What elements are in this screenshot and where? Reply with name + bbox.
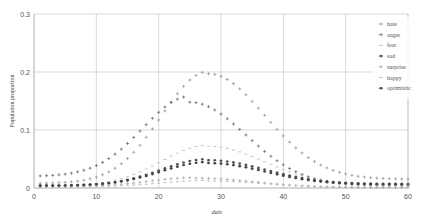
data-point <box>263 150 266 153</box>
line-chart: 010203040506000.10.20.3 date Population … <box>0 0 421 223</box>
data-point <box>101 173 104 176</box>
data-point <box>126 157 129 160</box>
data-point <box>157 179 160 182</box>
data-point <box>176 163 179 166</box>
data-point <box>238 165 241 168</box>
data-point <box>294 146 297 149</box>
data-point <box>257 107 260 110</box>
data-point <box>220 113 223 116</box>
data-point <box>282 163 285 166</box>
data-point <box>170 167 173 170</box>
data-point <box>226 78 229 81</box>
legend-label: anger <box>387 32 400 38</box>
data-point <box>226 163 229 166</box>
data-point <box>357 175 360 178</box>
data-point <box>269 172 272 175</box>
data-point <box>170 101 173 104</box>
data-point <box>263 114 266 117</box>
data-point <box>288 141 291 144</box>
data-point <box>64 173 67 176</box>
data-point <box>219 159 222 162</box>
y-tick-label: 0.1 <box>20 127 30 134</box>
data-point <box>201 158 204 161</box>
data-point <box>163 169 166 172</box>
data-point <box>251 165 254 168</box>
data-point <box>294 170 297 173</box>
data-point <box>195 74 198 77</box>
data-point <box>145 180 148 183</box>
data-point <box>238 87 241 90</box>
y-tick-label: 0 <box>26 185 30 192</box>
legend-label: sad <box>387 53 395 59</box>
data-point <box>207 159 210 162</box>
data-point <box>213 109 216 112</box>
data-point <box>76 170 79 173</box>
data-point <box>195 101 198 104</box>
data-point <box>132 136 135 139</box>
data-point <box>251 139 254 142</box>
data-point <box>213 73 216 76</box>
data-point <box>82 169 85 172</box>
data-point <box>163 105 166 108</box>
data-point <box>89 177 92 180</box>
data-point <box>313 160 316 163</box>
series-hate <box>39 71 410 185</box>
data-point <box>107 157 110 160</box>
data-point <box>39 182 42 185</box>
data-point <box>257 169 260 172</box>
x-tick-label: 20 <box>155 193 163 200</box>
data-point <box>57 181 60 184</box>
data-point <box>220 75 223 78</box>
series-anger <box>39 96 410 188</box>
data-point <box>301 151 304 154</box>
data-point <box>126 182 129 185</box>
data-point <box>182 85 185 88</box>
data-point <box>319 164 322 167</box>
data-point <box>82 179 85 182</box>
legend-label: optimistic <box>387 85 411 91</box>
data-point <box>251 167 254 170</box>
data-point <box>238 128 241 131</box>
x-tick-label: 30 <box>217 193 225 200</box>
data-point <box>132 151 135 154</box>
legend-label: happy <box>387 75 402 81</box>
series-happy <box>39 181 410 188</box>
data-point <box>257 145 260 148</box>
data-point <box>244 93 247 96</box>
data-point <box>170 177 173 180</box>
legend-label: fear <box>387 42 396 48</box>
data-point <box>95 164 98 167</box>
data-point <box>76 180 79 183</box>
data-point <box>276 159 279 162</box>
data-point <box>188 79 191 82</box>
data-point <box>232 161 235 164</box>
data-point <box>51 174 54 177</box>
data-point <box>263 182 266 185</box>
data-point <box>201 161 204 164</box>
data-point <box>145 123 148 126</box>
data-point <box>195 177 198 180</box>
data-point <box>226 160 229 163</box>
data-point <box>201 103 204 106</box>
x-tick-label: 60 <box>404 193 412 200</box>
data-point <box>269 155 272 158</box>
data-point <box>151 179 154 182</box>
x-tick-label: 10 <box>92 193 100 200</box>
data-point <box>157 118 160 121</box>
series-sad <box>39 158 410 187</box>
data-point <box>369 176 372 179</box>
data-point <box>182 164 185 167</box>
data-point <box>350 174 353 177</box>
data-point <box>375 177 378 180</box>
data-point <box>325 166 328 169</box>
data-point <box>70 180 73 183</box>
data-point <box>64 181 67 184</box>
data-point <box>95 176 98 179</box>
data-point <box>282 134 285 137</box>
data-point <box>70 172 73 175</box>
data-point <box>157 171 160 174</box>
data-point <box>220 178 223 181</box>
data-point <box>232 122 235 125</box>
legend-label: hate <box>387 21 397 27</box>
data-point <box>226 178 229 181</box>
